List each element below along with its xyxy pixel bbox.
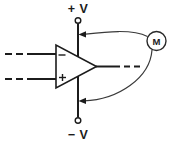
positive-probe-arrowhead-icon: [79, 31, 87, 37]
negative-supply-probe-group: [79, 50, 153, 104]
meter-label: M: [153, 36, 161, 47]
opamp-triangle-icon: [56, 45, 97, 88]
opamp-supply-current-schematic: M + V − V: [0, 0, 175, 143]
schematic-canvas: M + V − V: [0, 0, 175, 143]
opamp-symbol: [56, 45, 97, 88]
positive-supply-probe-group: [79, 31, 148, 37]
negative-supply-probe-wire: [84, 50, 152, 101]
negative-rail-label: − V: [68, 128, 89, 142]
negative-probe-arrowhead-icon: [79, 98, 87, 104]
current-meter[interactable]: M: [147, 32, 166, 51]
negative-rail-terminal-icon: [75, 118, 81, 124]
positive-rail-label: + V: [68, 2, 89, 16]
positive-supply-probe-wire: [84, 32, 148, 37]
positive-rail-terminal-icon: [75, 18, 81, 24]
